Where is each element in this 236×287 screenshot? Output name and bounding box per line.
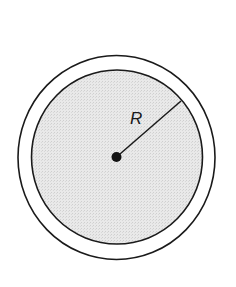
center-dot xyxy=(112,152,122,162)
radius-label: R xyxy=(130,109,142,128)
circle-diagram: R xyxy=(0,0,236,287)
diagram-canvas: R xyxy=(0,0,236,287)
